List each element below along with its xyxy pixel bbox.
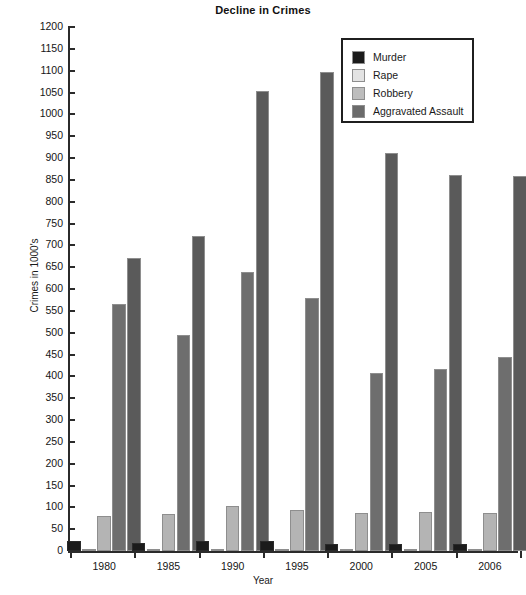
y-tick-label: 200 (23, 457, 63, 469)
x-tick-mark (391, 551, 393, 558)
y-tick-label: 50 (23, 522, 63, 534)
bar (192, 236, 206, 551)
y-tick-mark (68, 375, 75, 377)
y-tick-label: 650 (23, 260, 63, 272)
bar (355, 513, 369, 551)
y-tick-mark (68, 463, 75, 465)
bar (162, 514, 176, 551)
y-tick-label: 800 (23, 195, 63, 207)
legend-item-label: Aggravated Assault (373, 105, 463, 117)
y-tick-mark (68, 244, 75, 246)
bar (325, 544, 339, 551)
x-tick-mark (327, 551, 329, 558)
y-tick-label: 750 (23, 217, 63, 229)
y-tick-mark (68, 135, 75, 137)
y-tick-mark (68, 288, 75, 290)
y-tick-mark (68, 485, 75, 487)
bar (483, 513, 497, 551)
y-tick-label: 350 (23, 391, 63, 403)
y-tick-mark (68, 113, 75, 115)
bar (82, 549, 96, 551)
bar (389, 544, 403, 551)
bar (226, 506, 240, 551)
bar (97, 516, 111, 551)
bar (370, 373, 384, 551)
y-tick-label: 950 (23, 129, 63, 141)
chart-legend: MurderRapeRobberyAggravated Assault (341, 38, 474, 123)
y-tick-mark (68, 223, 75, 225)
y-tick-mark (68, 332, 75, 334)
bar (419, 512, 433, 551)
y-tick-label: 600 (23, 282, 63, 294)
y-tick-mark (68, 70, 75, 72)
bar (177, 335, 191, 551)
bar (147, 549, 161, 551)
bar (290, 510, 304, 551)
x-tick-mark (70, 551, 72, 558)
x-tick-label: 1995 (267, 560, 327, 572)
y-tick-label: 400 (23, 369, 63, 381)
y-tick-mark (68, 48, 75, 50)
bar (132, 543, 146, 551)
legend-item[interactable]: Murder (352, 48, 406, 66)
legend-item[interactable]: Robbery (352, 84, 413, 102)
bar (498, 357, 512, 551)
x-axis-label: Year (0, 575, 526, 586)
bar (468, 549, 482, 551)
x-tick-label: 2005 (396, 560, 456, 572)
bar (449, 175, 463, 551)
y-tick-label: 450 (23, 348, 63, 360)
bar (275, 549, 289, 551)
y-tick-label: 0 (23, 544, 63, 556)
x-tick-label: 1980 (74, 560, 134, 572)
y-tick-label: 500 (23, 326, 63, 338)
x-tick-label: 2006 (460, 560, 520, 572)
legend-swatch-icon (352, 87, 365, 100)
y-tick-mark (68, 441, 75, 443)
page-title: Decline in Crimes (0, 4, 526, 16)
x-tick-mark (520, 551, 522, 558)
y-tick-label: 1050 (23, 86, 63, 98)
y-tick-mark (68, 179, 75, 181)
y-tick-label: 900 (23, 151, 63, 163)
bar (196, 541, 210, 551)
legend-item-label: Murder (373, 51, 406, 63)
y-tick-label: 1000 (23, 107, 63, 119)
x-tick-label: 1990 (203, 560, 263, 572)
bar (340, 549, 354, 551)
bar (434, 369, 448, 551)
bar (256, 91, 270, 551)
y-tick-label: 1150 (23, 42, 63, 54)
bar (404, 549, 418, 551)
y-tick-mark (68, 92, 75, 94)
bar (112, 304, 126, 551)
bar (241, 272, 255, 551)
bar (305, 298, 319, 551)
y-tick-mark (68, 310, 75, 312)
bar (127, 258, 141, 551)
y-tick-label: 300 (23, 413, 63, 425)
bar (453, 544, 467, 551)
y-tick-label: 250 (23, 435, 63, 447)
legend-item-label: Rape (373, 69, 398, 81)
bar (211, 549, 225, 551)
y-tick-label: 1100 (23, 64, 63, 76)
x-tick-label: 2000 (331, 560, 391, 572)
y-tick-mark (68, 157, 75, 159)
legend-item[interactable]: Rape (352, 66, 398, 84)
y-tick-mark (68, 26, 75, 28)
legend-item[interactable]: Aggravated Assault (352, 102, 463, 120)
y-tick-mark (68, 528, 75, 530)
y-tick-mark (68, 419, 75, 421)
bar (385, 153, 399, 551)
legend-item-label: Robbery (373, 87, 413, 99)
y-tick-mark (68, 506, 75, 508)
x-tick-mark (263, 551, 265, 558)
legend-swatch-icon (352, 69, 365, 82)
bar (320, 72, 334, 551)
x-tick-mark (456, 551, 458, 558)
x-tick-mark (134, 551, 136, 558)
bar (260, 541, 274, 551)
y-tick-mark (68, 397, 75, 399)
chart-page: Decline in Crimes Crimes in 1000's Year … (0, 0, 526, 595)
